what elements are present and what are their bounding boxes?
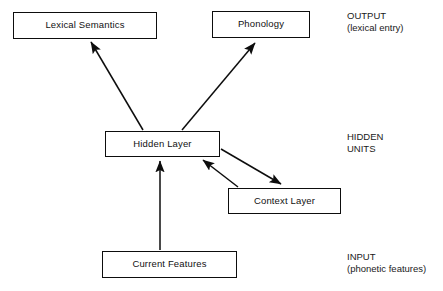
annotation-input-line2: (phonetic features) bbox=[347, 263, 426, 275]
annotation-input-line1: INPUT bbox=[347, 251, 426, 263]
annotation-output-line2: (lexical entry) bbox=[347, 22, 404, 34]
annotation-hidden-units-line2: UNITS bbox=[347, 143, 383, 155]
annotation-output-line1: OUTPUT bbox=[347, 10, 404, 22]
edge-hidden-to-lexical bbox=[91, 42, 143, 130]
annotation-hidden-units: HIDDEN UNITS bbox=[347, 131, 383, 154]
node-lexical-semantics-label: Lexical Semantics bbox=[45, 20, 124, 30]
annotation-hidden-units-line1: HIDDEN bbox=[347, 131, 383, 143]
node-phonology[interactable]: Phonology bbox=[212, 11, 310, 38]
node-phonology-label: Phonology bbox=[238, 19, 284, 29]
node-context-layer[interactable]: Context Layer bbox=[228, 188, 341, 214]
diagram-canvas: Lexical Semantics Phonology Hidden Layer… bbox=[0, 0, 443, 291]
edge-context-to-hidden bbox=[203, 160, 238, 187]
node-current-features[interactable]: Current Features bbox=[102, 251, 237, 278]
node-lexical-semantics[interactable]: Lexical Semantics bbox=[13, 12, 157, 39]
annotation-input: INPUT (phonetic features) bbox=[347, 251, 426, 274]
edge-hidden-to-context bbox=[221, 149, 281, 184]
node-current-features-label: Current Features bbox=[132, 259, 206, 269]
node-hidden-layer-label: Hidden Layer bbox=[133, 139, 191, 149]
node-hidden-layer[interactable]: Hidden Layer bbox=[105, 131, 220, 157]
edge-hidden-to-phonology bbox=[182, 43, 255, 130]
annotation-output: OUTPUT (lexical entry) bbox=[347, 10, 404, 33]
node-context-layer-label: Context Layer bbox=[254, 196, 315, 206]
